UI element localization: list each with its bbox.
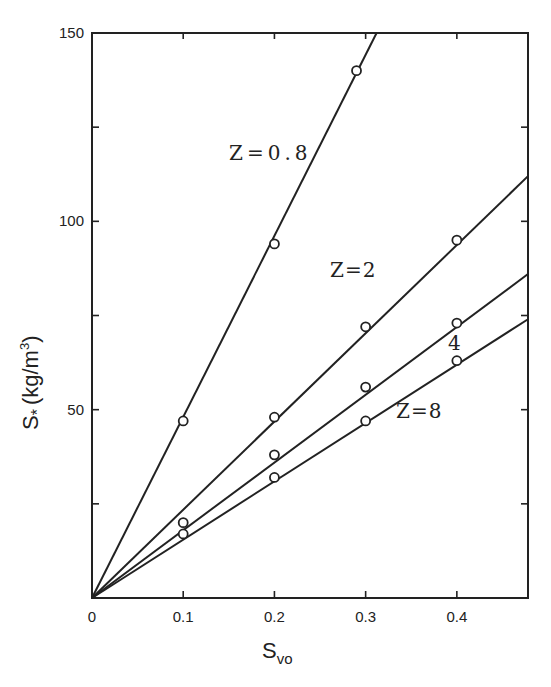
data-point	[452, 319, 461, 328]
data-markers	[179, 66, 462, 538]
data-point	[179, 518, 188, 527]
series-label: Z=2	[330, 258, 376, 282]
x-tick-label: 0.1	[173, 608, 194, 625]
y-tick-label: 100	[59, 212, 84, 229]
x-tick-label: 0	[88, 608, 96, 625]
data-point	[270, 473, 279, 482]
data-point	[361, 322, 370, 331]
plot-border	[92, 33, 528, 598]
series-label: Z=0.8	[229, 141, 311, 165]
data-point	[352, 66, 361, 75]
series-label: 4	[448, 331, 462, 355]
data-point	[179, 416, 188, 425]
series-line	[92, 274, 528, 598]
data-point	[270, 239, 279, 248]
x-tick-label: 0.2	[264, 608, 285, 625]
y-axis-title: S*(kg/m3)	[17, 336, 46, 430]
series-label: Z=8	[396, 399, 442, 423]
series-lines	[92, 33, 528, 598]
data-point	[270, 450, 279, 459]
x-tick-label: 0.4	[446, 608, 467, 625]
y-tick-label: 50	[67, 401, 84, 418]
y-tick-label: 150	[59, 24, 84, 41]
series-line	[92, 319, 528, 598]
series-line	[92, 33, 377, 598]
data-point	[361, 383, 370, 392]
chart: 00.10.20.30.450100150 Z=0.8Z=24Z=8 Svo S…	[0, 0, 551, 687]
plot-frame	[92, 33, 528, 598]
data-point	[452, 356, 461, 365]
data-point	[452, 236, 461, 245]
x-axis-title: Svo	[262, 638, 293, 667]
data-point	[179, 529, 188, 538]
data-point	[270, 413, 279, 422]
data-point	[361, 416, 370, 425]
series-line	[92, 176, 528, 598]
series-labels: Z=0.8Z=24Z=8	[229, 141, 462, 423]
x-tick-label: 0.3	[355, 608, 376, 625]
